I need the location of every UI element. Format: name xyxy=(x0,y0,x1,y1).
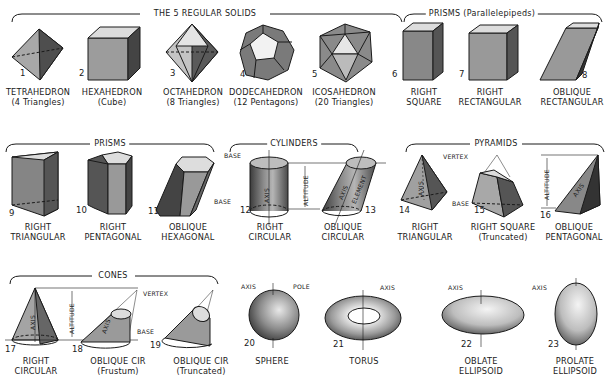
solid-caption-truncated-square-pyramid: RIGHT SQUARE(Truncated) xyxy=(471,222,536,242)
solid-caption-oblique-hexagonal-prism: OBLIQUEHEXAGONAL xyxy=(161,222,214,242)
solid-number: 21 xyxy=(333,339,344,349)
annotation-axis-pyramid: AXIS xyxy=(417,181,424,196)
solid-caption-hexahedron: HEXAHEDRON(Cube) xyxy=(82,87,142,107)
solid-number: 5 xyxy=(312,69,317,79)
solid-caption-right-square-prism: RIGHTSQUARE xyxy=(406,87,441,107)
annotation-axis-oblate: AXIS xyxy=(448,284,463,291)
solid-caption-tetrahedron: TETRAHEDRON(4 Triangles) xyxy=(6,87,70,107)
annotation-altitude-pyramid: ALTITUDE xyxy=(543,169,550,200)
solid-number: 20 xyxy=(244,338,255,348)
solid-number: 11 xyxy=(148,206,159,216)
annotation-altitude-cylinder: ALTITUDE xyxy=(302,175,309,206)
solid-number: 17 xyxy=(5,344,16,354)
annotation-axis-cone: AXIS xyxy=(29,315,36,330)
solid-number: 12 xyxy=(240,205,251,215)
annotation-altitude-cone: ALTITUDE xyxy=(68,303,75,334)
solid-number: 13 xyxy=(365,205,376,215)
annotation-base-pyramid: BASE xyxy=(452,200,469,207)
solid-caption-icosahedron: ICOSAHEDRON(20 Triangles) xyxy=(312,87,376,107)
annotation-axis-torus: AXIS xyxy=(380,284,395,291)
solid-number: 16 xyxy=(540,210,551,220)
annotation-vertex-cone: VERTEX xyxy=(143,290,168,297)
solid-caption-truncated-cone: OBLIQUE CIR(Truncated) xyxy=(173,356,228,376)
solid-caption-frustum-cone: OBLIQUE CIR(Frustum) xyxy=(90,356,145,376)
solid-caption-right-circular-cone: RIGHTCIRCULAR xyxy=(15,356,58,376)
solid-number: 9 xyxy=(9,208,14,218)
group-heading-prisms: PRISMS xyxy=(91,139,129,149)
annotation-axis-sphere: AXIS xyxy=(241,283,256,290)
solid-caption-right-circular-cylinder: RIGHTCIRCULAR xyxy=(249,222,292,242)
solid-caption-right-rectangular-prism: RIGHTRECTANGULAR xyxy=(458,87,521,107)
solid-caption-right-triangular-pyramid: RIGHTTRIANGULAR xyxy=(397,222,452,242)
solid-number: 3 xyxy=(170,68,175,78)
annotation-vertex-pyramid: VERTEX xyxy=(443,153,468,160)
group-heading-cones: CONES xyxy=(95,271,131,281)
solid-caption-torus: TORUS xyxy=(349,356,378,366)
annotation-base-cone: BASE xyxy=(137,328,154,335)
solid-caption-right-triangular-prism: RIGHTTRIANGULAR xyxy=(10,222,65,242)
solid-caption-dodecahedron: DODECAHEDRON(12 Pentagons) xyxy=(229,87,303,107)
solid-number: 4 xyxy=(240,69,245,79)
geometric-solids-diagram: THE 5 REGULAR SOLIDS PRISMS (Parallelepi… xyxy=(0,0,608,376)
solid-number: 8 xyxy=(582,70,587,80)
solid-caption-right-pentagonal-prism: RIGHTPENTAGONAL xyxy=(84,222,141,242)
solid-caption-oblique-circular-cylinder: OBLIQUECIRCULAR xyxy=(322,222,365,242)
solid-caption-prolate-ellipsoid: PROLATEELLIPSOID xyxy=(553,356,597,376)
solid-number: 10 xyxy=(76,205,87,215)
annotation-base-top: BASE xyxy=(224,152,241,159)
solid-number: 22 xyxy=(461,339,472,349)
group-heading-regular-solids: THE 5 REGULAR SOLIDS xyxy=(151,9,259,19)
solid-number: 19 xyxy=(150,340,161,350)
solid-number: 23 xyxy=(548,339,559,349)
solid-number: 18 xyxy=(72,344,83,354)
solid-caption-oblique-pentagonal-pyramid: OBLIQUEPENTAGONAL xyxy=(545,222,602,242)
solid-number: 15 xyxy=(474,205,485,215)
solid-number: 1 xyxy=(20,68,25,78)
annotation-base-bottom: BASE xyxy=(214,198,231,205)
solid-number: 6 xyxy=(392,69,397,79)
solid-number: 14 xyxy=(399,205,410,215)
solid-caption-oblate-ellipsoid: OBLATEELLIPSOID xyxy=(459,356,503,376)
solid-number: 2 xyxy=(79,68,84,78)
group-heading-pyramids: PYRAMIDS xyxy=(471,139,520,149)
solid-caption-octahedron: OCTAHEDRON(8 Triangles) xyxy=(163,87,223,107)
solid-number: 7 xyxy=(459,69,464,79)
group-heading-cylinders: CYLINDERS xyxy=(267,139,321,149)
solid-caption-sphere: SPHERE xyxy=(255,356,289,366)
annotation-pole-sphere: POLE xyxy=(293,283,310,290)
solid-caption-oblique-rectangular-prism: OBLIQUERECTANGULAR xyxy=(540,87,603,107)
group-heading-prisms-parallelepipeds: PRISMS (Parallelepipeds) xyxy=(426,9,538,19)
annotation-axis-prolate: AXIS xyxy=(532,284,547,291)
annotation-axis-cylinder: AXIS xyxy=(263,188,270,203)
